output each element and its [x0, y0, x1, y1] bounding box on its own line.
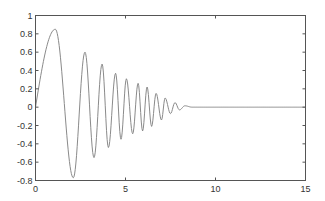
y-tick-label: 1 — [27, 11, 32, 21]
axes-frame — [36, 16, 306, 181]
x-tick-label: 10 — [210, 184, 220, 194]
y-tick-label: 0.8 — [20, 29, 33, 39]
y-tick-label: -0.2 — [17, 121, 33, 131]
y-tick-label: 0.4 — [20, 66, 33, 76]
y-axis: -0.8-0.6-0.4-0.200.20.40.60.81 — [17, 11, 306, 186]
x-tick-label: 15 — [300, 184, 310, 194]
line-chart: 051015 -0.8-0.6-0.4-0.200.20.40.60.81 — [0, 0, 325, 201]
y-tick-label: -0.6 — [17, 157, 33, 167]
y-tick-label: 0.6 — [20, 47, 33, 57]
y-tick-label: -0.8 — [17, 176, 33, 186]
x-tick-label: 5 — [123, 184, 128, 194]
y-tick-label: 0.2 — [20, 84, 33, 94]
y-tick-label: -0.4 — [17, 139, 33, 149]
y-tick-label: 0 — [27, 102, 32, 112]
x-tick-label: 0 — [33, 184, 38, 194]
x-axis: 051015 — [33, 16, 311, 194]
data-line — [36, 29, 306, 178]
